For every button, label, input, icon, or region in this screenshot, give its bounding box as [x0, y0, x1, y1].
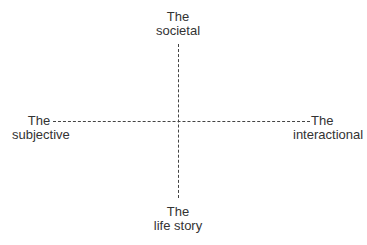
- bottom-label: The life story: [142, 205, 214, 233]
- bottom-label-line1: The: [142, 205, 214, 219]
- horizontal-axis: [53, 121, 310, 122]
- left-label: The subjective: [12, 114, 66, 142]
- top-label: The societal: [147, 10, 209, 38]
- right-label: The interactional: [293, 114, 355, 142]
- top-label-line1: The: [147, 10, 209, 24]
- top-label-line2: societal: [147, 24, 209, 38]
- right-label-line2: interactional: [293, 128, 355, 142]
- right-label-line1: The: [293, 114, 355, 128]
- left-label-line1: The: [12, 114, 66, 128]
- left-label-line2: subjective: [12, 128, 66, 142]
- bottom-label-line2: life story: [142, 219, 214, 233]
